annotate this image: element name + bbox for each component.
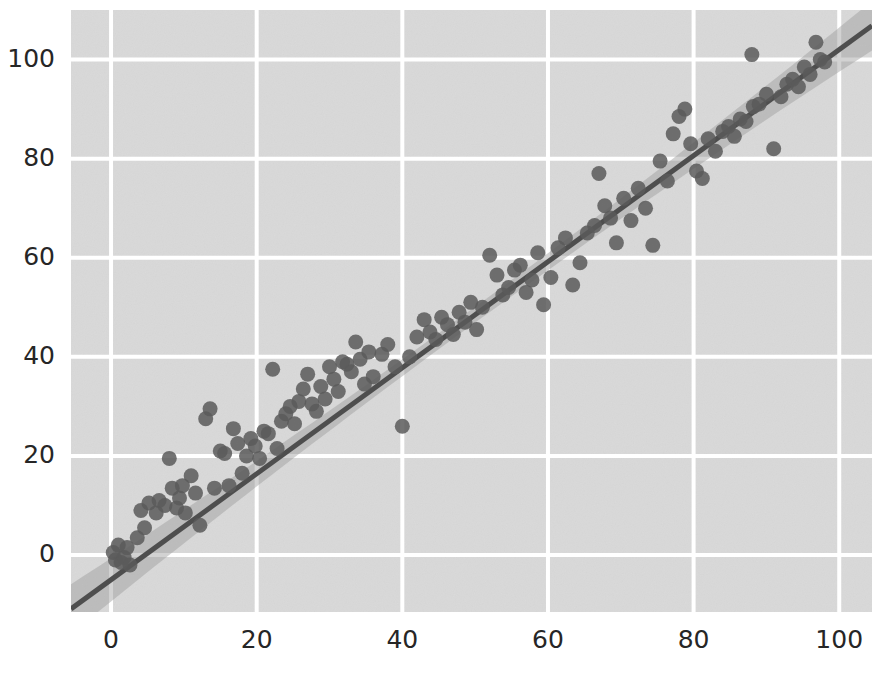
data-point [727,129,742,144]
data-point [808,35,823,50]
data-point [162,451,177,466]
x-axis-tick-label: 40 [386,625,418,654]
data-point [695,171,710,186]
data-point [265,362,280,377]
data-point [207,481,222,496]
data-point [603,211,618,226]
data-point [409,330,424,345]
data-point [638,201,653,216]
data-point [222,478,237,493]
data-point [759,87,774,102]
data-point [489,268,504,283]
data-point [708,144,723,159]
data-point [739,114,754,129]
data-point [184,468,199,483]
y-axis-tick-label: 0 [39,539,55,568]
data-point [482,248,497,263]
data-point [261,426,276,441]
data-point [380,337,395,352]
data-point [631,181,646,196]
data-point [530,245,545,260]
data-point [513,258,528,273]
data-point [309,404,324,419]
data-point [235,466,250,481]
data-point [524,273,539,288]
data-point [287,416,302,431]
data-point [230,436,245,451]
data-point [683,136,698,151]
x-axis-tick-label: 60 [532,625,564,654]
data-point [217,446,232,461]
y-axis-tick-label: 40 [23,341,55,370]
x-axis-tick-label: 0 [103,625,119,654]
data-point [361,344,376,359]
data-point [318,391,333,406]
data-point [203,401,218,416]
data-point [501,280,516,295]
data-point [573,255,588,270]
data-point [623,213,638,228]
data-point [402,349,417,364]
data-point [565,277,580,292]
y-axis-tick-label: 20 [23,440,55,469]
data-point [677,102,692,117]
data-point [543,270,558,285]
data-point [331,384,346,399]
data-point [766,141,781,156]
data-point [366,369,381,384]
data-point [192,518,207,533]
y-axis-tick-label: 60 [23,242,55,271]
data-point [587,218,602,233]
x-axis-tick-label: 100 [815,625,863,654]
data-point [591,166,606,181]
data-point [172,491,187,506]
data-point [469,322,484,337]
data-point [536,297,551,312]
data-point [666,126,681,141]
data-point [226,421,241,436]
data-point [296,382,311,397]
data-point [122,557,137,572]
plot-canvas: 020406080100 020406080100 [0,0,872,681]
data-point [558,230,573,245]
data-point [744,47,759,62]
data-point [388,359,403,374]
data-point [653,154,668,169]
data-point [348,334,363,349]
data-point [252,451,267,466]
x-axis-tick-label: 80 [678,625,710,654]
data-point [645,238,660,253]
data-point [817,55,832,70]
data-point [475,300,490,315]
y-axis-tick-label: 100 [7,44,55,73]
data-point [137,520,152,535]
data-point [791,79,806,94]
data-point [609,235,624,250]
data-point [270,441,285,456]
data-point [803,67,818,82]
data-point [344,364,359,379]
data-point [446,327,461,342]
data-point [395,419,410,434]
data-point [188,486,203,501]
data-point [616,191,631,206]
y-axis-tick-label: 80 [23,143,55,172]
scatter-plot-figure: 020406080100 020406080100 [0,0,872,681]
x-axis-tick-label: 20 [241,625,273,654]
data-point [660,173,675,188]
data-point [428,332,443,347]
data-point [178,505,193,520]
data-point [300,367,315,382]
